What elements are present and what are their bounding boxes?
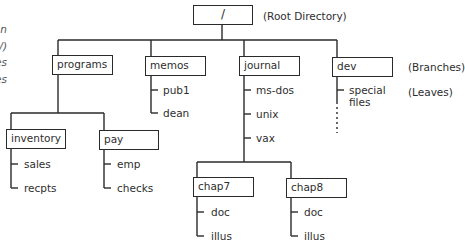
node-pay: pay — [99, 130, 159, 150]
branches-annotation: (Branches) — [408, 61, 465, 73]
leaf-doc: doc — [304, 206, 323, 218]
caption-fragment: es — [0, 56, 7, 68]
node-chap8: chap8 — [286, 178, 347, 198]
root-annotation: (Root Directory) — [263, 10, 347, 22]
leaf-illus: illus — [211, 230, 232, 242]
node-memos: memos — [145, 56, 206, 76]
leaf-dean: dean — [163, 107, 189, 119]
leaf-emp: emp — [117, 158, 140, 170]
leaf-recpts: recpts — [24, 182, 57, 194]
node-journal: journal — [239, 56, 300, 76]
node-dev: dev — [332, 57, 393, 77]
leaf-special: special — [349, 84, 386, 96]
leaf-sales: sales — [24, 158, 51, 170]
leaves-annotation: (Leaves) — [408, 86, 453, 98]
leaf-files: files — [349, 96, 370, 108]
root-node: / — [193, 5, 253, 25]
leaf-checks: checks — [117, 182, 153, 194]
leaf-unix: unix — [256, 108, 278, 120]
leaf-vax: vax — [256, 132, 275, 144]
leaf-pub1: pub1 — [163, 84, 190, 96]
leaf-illus: illus — [304, 230, 325, 242]
caption-fragment: n — [0, 23, 7, 35]
caption-fragment: es — [0, 73, 7, 85]
node-chap7: chap7 — [193, 177, 254, 197]
leaf-doc: doc — [211, 206, 230, 218]
leaf-ms-dos: ms-dos — [256, 84, 294, 96]
caption-fragment: /) — [0, 40, 7, 52]
node-programs: programs — [52, 55, 113, 75]
node-inventory: inventory — [6, 129, 66, 149]
